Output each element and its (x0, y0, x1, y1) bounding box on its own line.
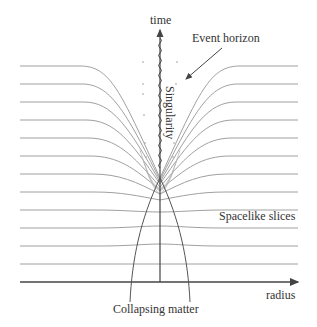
time-axis-label: time (150, 13, 171, 27)
collapsing-matter-label: Collapsing matter (113, 302, 199, 316)
singularity-line (159, 38, 162, 168)
slice-1 (20, 66, 298, 178)
event-horizon-label: Event horizon (192, 31, 260, 45)
collapsing-matter-right (160, 178, 190, 302)
slice-6 (20, 156, 298, 190)
singularity-label: Singularity (163, 86, 177, 139)
spacelike-slices-label: Spacelike slices (219, 209, 296, 223)
radius-axis-label: radius (266, 288, 296, 302)
slice-10 (20, 226, 298, 228)
black-hole-penrose-diagram: time Event horizon Singularity Spacelike… (0, 0, 317, 327)
slice-11 (20, 244, 298, 246)
collapsing-matter-left (130, 178, 160, 302)
